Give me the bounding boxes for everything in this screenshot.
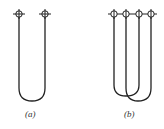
terminal-icon [39,9,51,19]
terminal-icon [148,9,154,19]
terminal-icon [13,9,25,19]
panel-label-a: (a) [25,109,36,119]
terminal-icon [111,9,117,19]
terminal-icon [123,9,129,19]
loop-a [19,17,45,101]
terminal-icon [136,9,142,19]
panel-label-b: (b) [124,109,135,119]
